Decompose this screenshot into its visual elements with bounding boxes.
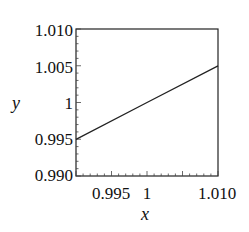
y-minor-ticks	[76, 29, 81, 176]
data-line	[76, 66, 218, 140]
y-axis-title: y	[12, 95, 20, 112]
x-axis-title: x	[141, 206, 149, 223]
y-tick-label: 1.005	[3, 59, 73, 76]
x-tick-label: 1.010	[187, 185, 247, 202]
x-tick-label: 1	[117, 185, 177, 202]
y-tick-label: 1.010	[3, 22, 73, 39]
y-tick-label: 0.990	[3, 167, 73, 184]
y-tick-label: 0.995	[3, 131, 73, 148]
x-minor-ticks	[76, 171, 218, 176]
